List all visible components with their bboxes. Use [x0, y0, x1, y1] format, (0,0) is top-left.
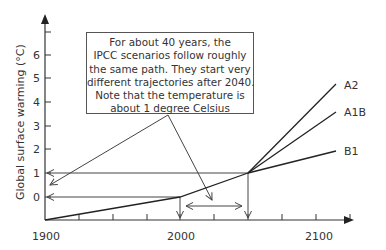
y-axis: 0 1 2 3 4 5 6 Global surface warming (°C…: [14, 14, 51, 220]
y-tick-label: 2: [33, 143, 40, 156]
y-tick-label: 0: [33, 191, 40, 204]
y-axis-label: Global surface warming (°C): [14, 44, 27, 200]
callout-line: about 1 degree Celsius: [87, 102, 253, 115]
callout-line: Note that the temperature is: [87, 89, 253, 102]
x-tick-label: 2000: [167, 230, 195, 243]
y-tick-label: 4: [33, 96, 40, 109]
callout-pointers: [50, 115, 212, 200]
y-axis-arrow-icon: [41, 14, 49, 24]
x-tick-label: 1900: [32, 230, 60, 243]
y-tick-label: 3: [33, 120, 40, 133]
callout-line: For about 40 years, the: [87, 36, 253, 49]
callout-line: the same path. They start very: [87, 63, 253, 76]
series-b1: [248, 151, 336, 173]
x-axis-arrow-icon: [344, 216, 354, 224]
reference-lines: [47, 173, 248, 218]
x-tick-label: 2100: [305, 230, 333, 243]
callout-line: different trajectories after 2040.: [87, 76, 253, 89]
y-tick-label: 6: [33, 49, 40, 62]
x-axis: 1900 2000 2100: [32, 214, 354, 243]
series-a2: [248, 84, 336, 173]
callout-box: For about 40 years, the IPCC scenarios f…: [86, 32, 254, 114]
series-a1b: [248, 112, 336, 173]
series-label-a1b: A1B: [344, 106, 366, 119]
y-tick-label: 1: [33, 167, 40, 180]
callout-line: IPCC scenarios follow roughly: [87, 49, 253, 62]
series-label-b1: B1: [344, 145, 359, 158]
y-tick-label: 5: [33, 72, 40, 85]
series-label-a2: A2: [344, 79, 359, 92]
